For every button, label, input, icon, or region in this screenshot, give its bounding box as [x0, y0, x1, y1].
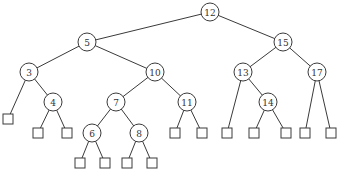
- node-label: 4: [50, 98, 56, 108]
- leaf-node: [122, 158, 132, 168]
- leaf-node: [33, 128, 43, 138]
- node-label: 8: [136, 129, 142, 139]
- node-label: 14: [262, 98, 274, 108]
- leaf-node: [197, 128, 207, 138]
- tree-node-10: 10: [146, 63, 164, 81]
- leaf-node: [75, 158, 85, 168]
- tree-node-7: 7: [107, 93, 125, 111]
- node-label: 11: [181, 98, 192, 108]
- node-label: 5: [84, 38, 90, 48]
- leaf-box: [326, 128, 336, 138]
- leaf-box: [300, 128, 310, 138]
- leaf-node: [300, 128, 310, 138]
- tree-node-12: 12: [201, 3, 219, 21]
- leaf-node: [249, 128, 259, 138]
- node-label: 7: [113, 98, 119, 108]
- tree-node-4: 4: [44, 93, 62, 111]
- leaf-box: [147, 158, 157, 168]
- tree-canvas: 12515310131747111468: [0, 0, 340, 176]
- tree-node-14: 14: [259, 93, 277, 111]
- leaf-box: [281, 128, 291, 138]
- tree-node-8: 8: [130, 124, 148, 142]
- leaf-node: [147, 158, 157, 168]
- leaf-node: [62, 128, 72, 138]
- node-label: 6: [89, 129, 95, 139]
- leaf-box: [62, 128, 72, 138]
- leaf-box: [222, 128, 232, 138]
- tree-node-5: 5: [78, 33, 96, 51]
- leaf-node: [326, 128, 336, 138]
- leaf-node: [3, 114, 13, 124]
- leaf-node: [222, 128, 232, 138]
- tree-node-6: 6: [83, 124, 101, 142]
- leaf-box: [170, 128, 180, 138]
- leaf-box: [197, 128, 207, 138]
- tree-node-3: 3: [20, 63, 38, 81]
- leaf-box: [75, 158, 85, 168]
- leaf-box: [249, 128, 259, 138]
- leaf-box: [100, 158, 110, 168]
- tree-node-13: 13: [234, 63, 252, 81]
- tree-node-11: 11: [178, 93, 196, 111]
- tree-node-15: 15: [274, 33, 292, 51]
- node-label: 17: [311, 68, 323, 78]
- leaf-node: [170, 128, 180, 138]
- leaf-box: [122, 158, 132, 168]
- leaf-node: [281, 128, 291, 138]
- edge-5-3: [29, 42, 87, 72]
- node-label: 13: [237, 68, 249, 78]
- edge-5-10: [87, 42, 155, 72]
- leaf-box: [33, 128, 43, 138]
- edge-12-15: [210, 12, 283, 42]
- node-label: 12: [204, 8, 215, 18]
- edge-12-5: [87, 12, 210, 42]
- node-label: 3: [26, 68, 32, 78]
- leaf-node: [100, 158, 110, 168]
- tree-node-17: 17: [308, 63, 326, 81]
- tree-diagram: 12515310131747111468: [0, 0, 340, 176]
- leaf-box: [3, 114, 13, 124]
- node-label: 10: [149, 68, 161, 78]
- node-label: 15: [277, 38, 289, 48]
